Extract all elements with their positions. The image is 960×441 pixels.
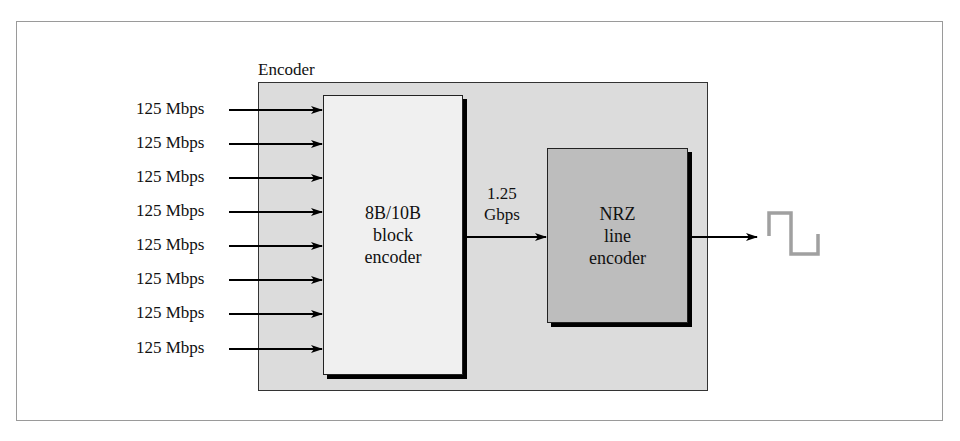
input-arrows [229, 110, 757, 349]
connector-arrows [0, 0, 960, 441]
square-wave-icon [769, 213, 818, 254]
